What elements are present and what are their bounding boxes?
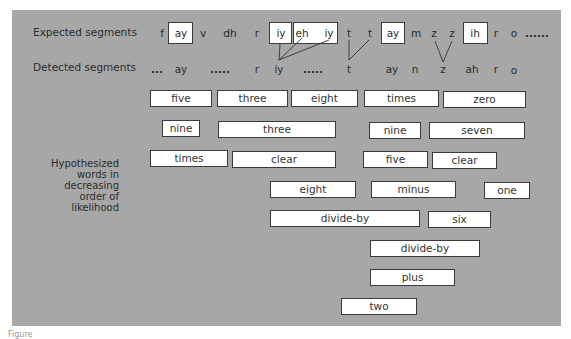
expected-segment: z [449,27,455,39]
figure-caption: Figure [8,330,32,339]
word-hypothesis: one [484,182,530,199]
expected-segment: iy [276,27,285,39]
expected-segment: v [200,27,206,39]
word-hypothesis: times [150,150,228,167]
detected-segment-ellipsis: ... [151,63,163,75]
word-hypothesis: divide-by [270,210,420,227]
expected-segment: dh [223,27,236,39]
detected-segment: r [255,63,259,75]
expected-segment: ay [387,27,400,39]
detected-segment: n [412,63,419,75]
word-hypothesis: clear [432,152,497,169]
expected-segment: r [494,27,498,39]
word-hypothesis: five [150,90,212,107]
detected-segment: ah [465,63,478,75]
hypothesized-words-label: Hypothesized words in decreasing order o… [40,158,119,213]
word-hypothesis: five [363,151,428,168]
detected-segment: z [440,63,446,75]
detected-segment: ay [175,63,188,75]
word-hypothesis: eight [291,90,358,107]
expected-segment: t [347,27,351,39]
word-hypothesis: divide-by [370,240,480,257]
detected-segment-ellipsis: ..... [210,63,230,75]
word-hypothesis: nine [369,122,421,139]
detected-segment: t [347,63,351,75]
expected-segment-ellipsis: ...... [525,27,549,39]
detected-segment-ellipsis: ..... [303,63,323,75]
detected-segment: o [511,64,517,76]
word-hypothesis: plus [370,269,455,286]
expected-segment: iy [324,27,333,39]
expected-segments-label: Expected segments [33,26,137,38]
expected-segment: z [431,27,437,39]
word-hypothesis: seven [429,122,525,139]
word-hypothesis: zero [443,91,526,108]
word-hypothesis: clear [232,151,336,168]
expected-segment: o [511,27,517,39]
detected-segment: ay [386,63,399,75]
word-hypothesis: six [428,211,491,228]
word-hypothesis: nine [162,120,200,137]
word-hypothesis: times [364,90,439,107]
expected-segment: t [368,27,372,39]
detected-segment: iy [274,63,283,75]
word-hypothesis: three [217,90,288,107]
word-hypothesis: three [218,121,336,138]
expected-segment: eh [295,27,308,39]
expected-segment: ay [175,27,188,39]
expected-segment: f [160,27,164,39]
word-hypothesis: minus [371,181,456,198]
word-hypothesis: eight [270,181,356,198]
word-hypothesis: two [341,298,417,315]
expected-segment: m [411,27,421,39]
expected-segment: ih [470,27,480,39]
detected-segment: r [494,63,498,75]
detected-segments-label: Detected segments [33,61,136,73]
expected-segment: r [255,27,259,39]
